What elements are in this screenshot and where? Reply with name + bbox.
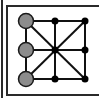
game-board xyxy=(0,0,99,98)
game-root xyxy=(0,0,99,98)
board-point-r2-c1[interactable] xyxy=(52,76,59,83)
board-point-r1-c1[interactable] xyxy=(52,47,59,54)
board-point-r0-c2[interactable] xyxy=(82,18,89,25)
board-pieces xyxy=(19,14,34,87)
board-point-r2-c2[interactable] xyxy=(82,76,89,83)
game-piece-r2-c0[interactable] xyxy=(19,72,34,87)
board-point-r1-c2[interactable] xyxy=(82,47,89,54)
game-piece-r1-c0[interactable] xyxy=(19,43,34,58)
game-piece-r0-c0[interactable] xyxy=(19,14,34,29)
board-point-r0-c1[interactable] xyxy=(52,18,59,25)
